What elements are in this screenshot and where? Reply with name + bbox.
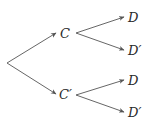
edge-c-prime-to-d	[76, 80, 124, 95]
probability-tree-diagram: C C′ D D′ D D′	[0, 0, 150, 122]
edge-c-to-d-prime	[76, 33, 124, 50]
node-label-d-prime-upper: D′	[127, 43, 141, 58]
edge-root-to-c	[7, 33, 56, 63]
node-label-d-lower: D	[127, 73, 139, 88]
edge-root-to-c-prime	[7, 63, 56, 94]
edge-c-to-d	[76, 17, 124, 33]
edge-c-prime-to-d-prime	[76, 95, 124, 112]
node-label-d-prime-lower: D′	[127, 105, 141, 120]
node-label-c: C	[60, 26, 70, 41]
node-label-c-prime: C′	[59, 87, 72, 102]
tree-svg: C C′ D D′ D D′	[0, 0, 150, 122]
node-label-d-upper: D	[127, 10, 139, 25]
